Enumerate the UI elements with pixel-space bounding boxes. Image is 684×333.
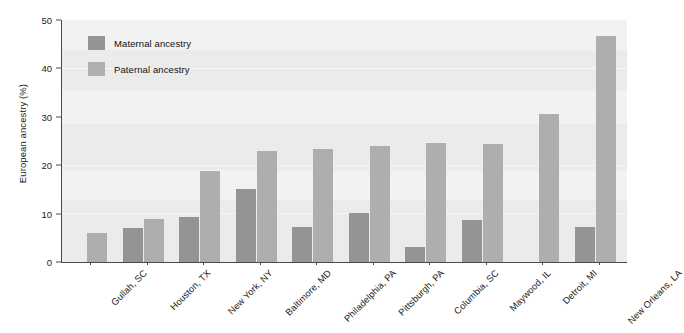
y-tick-label: 0: [22, 257, 52, 268]
x-tick-mark: [90, 262, 91, 265]
bar-paternal: [539, 114, 559, 262]
bar-paternal: [144, 219, 164, 262]
legend-label-paternal: Paternal ancestry: [114, 64, 190, 75]
legend-swatch-paternal-icon: [88, 62, 105, 76]
bar-maternal: [236, 189, 256, 262]
x-tick-label: Maywood, IL: [508, 268, 553, 313]
x-tick-label: New Orleans, LA: [626, 268, 684, 326]
bar-group: [514, 20, 571, 262]
x-tick-mark: [316, 262, 317, 265]
x-tick-mark: [147, 262, 148, 265]
bar-maternal: [292, 227, 312, 262]
x-tick-mark: [373, 262, 374, 265]
x-tick-label: Philadelphia, PA: [343, 268, 399, 324]
legend-swatch-maternal-icon: [88, 36, 105, 50]
bar-group: [458, 20, 515, 262]
y-tick-label: 20: [22, 160, 52, 171]
x-tick-label: Houston, TX: [168, 268, 212, 312]
bar-paternal: [87, 233, 107, 262]
bar-group: [571, 20, 628, 262]
bar-maternal: [179, 217, 199, 262]
x-tick-label: Detroit, MI: [561, 268, 599, 306]
legend-item-paternal: Paternal ancestry: [88, 62, 191, 76]
bar-group: [345, 20, 402, 262]
x-tick-label: Gullah, SC: [110, 268, 150, 308]
x-tick-label: Columbia, SC: [452, 268, 500, 316]
y-tick-label: 30: [22, 111, 52, 122]
bar-maternal: [575, 227, 595, 262]
x-tick-label: Baltimore, MD: [283, 268, 333, 318]
bar-paternal: [596, 36, 616, 262]
y-axis-tick-labels: 01020304050: [18, 0, 52, 333]
bar-group: [288, 20, 345, 262]
bar-paternal: [200, 171, 220, 262]
bar-maternal: [405, 247, 425, 262]
x-tick-mark: [542, 262, 543, 265]
legend-label-maternal: Maternal ancestry: [114, 38, 191, 49]
y-tick-label: 50: [22, 15, 52, 26]
bar-group: [401, 20, 458, 262]
x-tick-mark: [203, 262, 204, 265]
y-tick-label: 40: [22, 63, 52, 74]
bar-paternal: [257, 151, 277, 262]
x-tick-mark: [429, 262, 430, 265]
bar-group: [232, 20, 289, 262]
y-tick-label: 10: [22, 208, 52, 219]
bar-paternal: [313, 149, 333, 262]
legend-item-maternal: Maternal ancestry: [88, 36, 191, 50]
bar-paternal: [483, 144, 503, 262]
x-tick-label: Pittsburgh, PA: [396, 268, 446, 318]
x-tick-mark: [260, 262, 261, 265]
bar-paternal: [426, 143, 446, 262]
bar-maternal: [349, 213, 369, 262]
bar-maternal: [462, 220, 482, 262]
x-axis-tick-labels: Gullah, SCHouston, TXNew York, NYBaltimo…: [62, 264, 627, 333]
chart-legend: Maternal ancestry Paternal ancestry: [88, 36, 191, 88]
x-tick-mark: [599, 262, 600, 265]
x-tick-mark: [486, 262, 487, 265]
bar-maternal: [123, 228, 143, 262]
x-tick-label: New York, NY: [226, 268, 274, 316]
bar-paternal: [370, 146, 390, 262]
